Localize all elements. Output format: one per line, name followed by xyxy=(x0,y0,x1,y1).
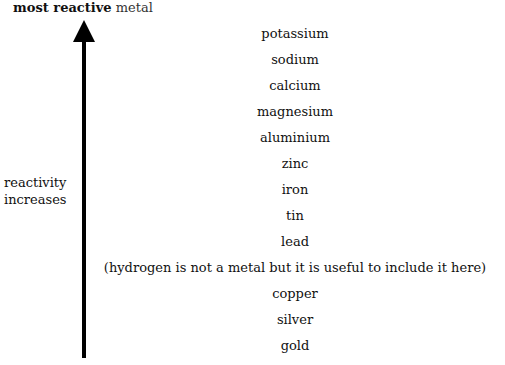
diagram-title: most reactive metal xyxy=(13,0,153,15)
series-item: gold xyxy=(0,338,505,353)
series-item: silver xyxy=(0,312,505,327)
series-item: tin xyxy=(0,208,505,223)
title-rest: metal xyxy=(112,0,153,15)
series-item: iron xyxy=(0,182,505,197)
series-item: lead xyxy=(0,234,505,249)
series-item: calcium xyxy=(0,78,505,93)
series-item: zinc xyxy=(0,156,505,171)
series-item: aluminium xyxy=(0,130,505,145)
series-item: sodium xyxy=(0,52,505,67)
title-bold: most reactive xyxy=(13,0,112,15)
series-item: copper xyxy=(0,286,505,301)
hydrogen-note: (hydrogen is not a metal but it is usefu… xyxy=(0,260,505,275)
series-item: magnesium xyxy=(0,104,505,119)
series-item: potassium xyxy=(0,26,505,41)
